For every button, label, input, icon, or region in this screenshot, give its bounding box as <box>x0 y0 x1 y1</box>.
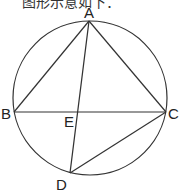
label-E: E <box>64 114 74 129</box>
circle <box>13 21 167 175</box>
label-A: A <box>84 5 94 20</box>
segment-AD <box>70 21 89 173</box>
label-B: B <box>1 106 11 121</box>
label-D: D <box>56 177 67 192</box>
segment-CD <box>70 112 166 173</box>
segment-AC <box>89 21 166 112</box>
geometry-figure <box>0 0 180 196</box>
label-C: C <box>168 106 179 121</box>
segment-AB <box>14 21 89 112</box>
